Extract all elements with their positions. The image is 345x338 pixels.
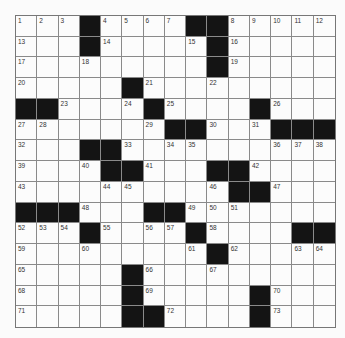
grid-cell[interactable] bbox=[80, 286, 101, 307]
grid-cell[interactable]: 61 bbox=[186, 244, 207, 265]
grid-cell[interactable] bbox=[229, 120, 250, 141]
grid-cell[interactable] bbox=[101, 57, 122, 78]
grid-cell[interactable] bbox=[207, 99, 228, 120]
grid-cell[interactable] bbox=[314, 306, 335, 327]
grid-cell[interactable]: 60 bbox=[80, 244, 101, 265]
grid-cell[interactable] bbox=[101, 286, 122, 307]
grid-cell[interactable]: 15 bbox=[186, 37, 207, 58]
grid-cell[interactable]: 37 bbox=[292, 140, 313, 161]
grid-cell[interactable] bbox=[59, 78, 80, 99]
grid-cell[interactable] bbox=[122, 203, 143, 224]
grid-cell[interactable]: 4 bbox=[101, 16, 122, 37]
grid-cell[interactable] bbox=[37, 78, 58, 99]
grid-cell[interactable]: 2 bbox=[37, 16, 58, 37]
grid-cell[interactable]: 41 bbox=[144, 161, 165, 182]
grid-cell[interactable] bbox=[271, 203, 292, 224]
grid-cell[interactable] bbox=[80, 78, 101, 99]
grid-cell[interactable]: 63 bbox=[292, 244, 313, 265]
grid-cell[interactable] bbox=[37, 244, 58, 265]
grid-cell[interactable]: 34 bbox=[165, 140, 186, 161]
grid-cell[interactable] bbox=[144, 244, 165, 265]
grid-cell[interactable]: 23 bbox=[59, 99, 80, 120]
grid-cell[interactable] bbox=[37, 161, 58, 182]
grid-cell[interactable] bbox=[80, 265, 101, 286]
grid-cell[interactable]: 20 bbox=[16, 78, 37, 99]
grid-cell[interactable] bbox=[165, 244, 186, 265]
grid-cell[interactable] bbox=[59, 265, 80, 286]
grid-cell[interactable] bbox=[101, 99, 122, 120]
grid-cell[interactable] bbox=[292, 306, 313, 327]
grid-cell[interactable] bbox=[80, 120, 101, 141]
grid-cell[interactable]: 64 bbox=[314, 244, 335, 265]
grid-cell[interactable]: 54 bbox=[59, 223, 80, 244]
grid-cell[interactable] bbox=[144, 182, 165, 203]
grid-cell[interactable] bbox=[292, 265, 313, 286]
grid-cell[interactable]: 72 bbox=[165, 306, 186, 327]
grid-cell[interactable] bbox=[314, 286, 335, 307]
grid-cell[interactable] bbox=[250, 78, 271, 99]
grid-cell[interactable]: 49 bbox=[186, 203, 207, 224]
grid-cell[interactable] bbox=[80, 182, 101, 203]
grid-cell[interactable]: 65 bbox=[16, 265, 37, 286]
grid-cell[interactable]: 33 bbox=[122, 140, 143, 161]
grid-cell[interactable] bbox=[59, 57, 80, 78]
grid-cell[interactable]: 42 bbox=[250, 161, 271, 182]
grid-cell[interactable] bbox=[59, 120, 80, 141]
grid-cell[interactable] bbox=[101, 78, 122, 99]
grid-cell[interactable] bbox=[207, 140, 228, 161]
grid-cell[interactable] bbox=[165, 78, 186, 99]
grid-cell[interactable]: 29 bbox=[144, 120, 165, 141]
grid-cell[interactable]: 50 bbox=[207, 203, 228, 224]
grid-cell[interactable] bbox=[292, 37, 313, 58]
grid-cell[interactable] bbox=[37, 182, 58, 203]
grid-cell[interactable] bbox=[59, 306, 80, 327]
grid-cell[interactable] bbox=[314, 37, 335, 58]
grid-cell[interactable] bbox=[314, 57, 335, 78]
grid-cell[interactable] bbox=[271, 161, 292, 182]
grid-cell[interactable] bbox=[101, 306, 122, 327]
grid-cell[interactable]: 3 bbox=[59, 16, 80, 37]
grid-cell[interactable] bbox=[271, 78, 292, 99]
grid-cell[interactable]: 26 bbox=[271, 99, 292, 120]
grid-cell[interactable] bbox=[165, 182, 186, 203]
grid-cell[interactable] bbox=[207, 306, 228, 327]
grid-cell[interactable] bbox=[292, 182, 313, 203]
grid-cell[interactable] bbox=[101, 265, 122, 286]
grid-cell[interactable]: 62 bbox=[229, 244, 250, 265]
grid-cell[interactable]: 70 bbox=[271, 286, 292, 307]
grid-cell[interactable] bbox=[59, 37, 80, 58]
grid-cell[interactable] bbox=[186, 182, 207, 203]
grid-cell[interactable] bbox=[186, 99, 207, 120]
grid-cell[interactable]: 22 bbox=[207, 78, 228, 99]
grid-cell[interactable]: 43 bbox=[16, 182, 37, 203]
grid-cell[interactable] bbox=[229, 223, 250, 244]
grid-cell[interactable] bbox=[101, 120, 122, 141]
grid-cell[interactable]: 69 bbox=[144, 286, 165, 307]
grid-cell[interactable]: 21 bbox=[144, 78, 165, 99]
grid-cell[interactable]: 12 bbox=[314, 16, 335, 37]
grid-cell[interactable] bbox=[314, 203, 335, 224]
grid-cell[interactable] bbox=[37, 286, 58, 307]
grid-cell[interactable]: 38 bbox=[314, 140, 335, 161]
grid-cell[interactable] bbox=[165, 161, 186, 182]
grid-cell[interactable]: 16 bbox=[229, 37, 250, 58]
grid-cell[interactable]: 32 bbox=[16, 140, 37, 161]
grid-cell[interactable]: 57 bbox=[165, 223, 186, 244]
grid-cell[interactable] bbox=[80, 99, 101, 120]
grid-cell[interactable] bbox=[59, 286, 80, 307]
grid-cell[interactable] bbox=[186, 265, 207, 286]
grid-cell[interactable] bbox=[165, 37, 186, 58]
grid-cell[interactable]: 71 bbox=[16, 306, 37, 327]
grid-cell[interactable]: 68 bbox=[16, 286, 37, 307]
grid-cell[interactable] bbox=[37, 306, 58, 327]
grid-cell[interactable]: 51 bbox=[229, 203, 250, 224]
grid-cell[interactable]: 13 bbox=[16, 37, 37, 58]
grid-cell[interactable]: 24 bbox=[122, 99, 143, 120]
grid-cell[interactable] bbox=[229, 78, 250, 99]
grid-cell[interactable] bbox=[165, 265, 186, 286]
grid-cell[interactable]: 27 bbox=[16, 120, 37, 141]
grid-cell[interactable]: 11 bbox=[292, 16, 313, 37]
grid-cell[interactable]: 17 bbox=[16, 57, 37, 78]
grid-cell[interactable]: 48 bbox=[80, 203, 101, 224]
grid-cell[interactable] bbox=[271, 37, 292, 58]
